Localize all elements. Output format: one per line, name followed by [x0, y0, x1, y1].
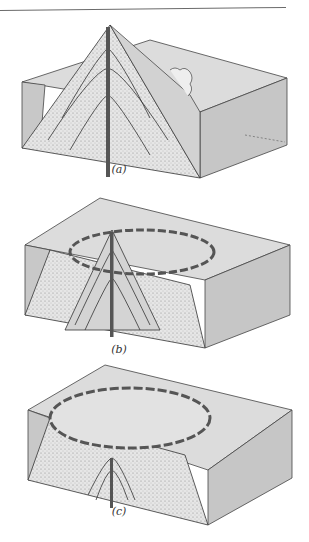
panel-label-a: (a)	[104, 163, 134, 176]
panel-b: (b)	[0, 180, 309, 360]
panel-c: (c)	[0, 360, 309, 542]
volcano-cone-diagram	[0, 0, 309, 180]
panel-label-b: (b)	[104, 343, 134, 356]
panel-label-c: (c)	[104, 505, 134, 518]
panel-a: (a)	[0, 0, 309, 180]
collapsing-summit-diagram	[0, 180, 309, 360]
caldera-diagram	[0, 360, 309, 542]
